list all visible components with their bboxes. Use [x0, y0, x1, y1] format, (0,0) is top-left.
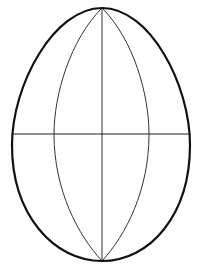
egg-drawing [0, 0, 201, 274]
background [0, 0, 201, 274]
egg-diagram [0, 0, 201, 274]
